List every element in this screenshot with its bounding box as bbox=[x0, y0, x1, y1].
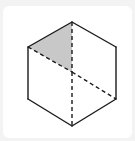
dashed-edge-center-lower-right bbox=[72, 72, 116, 99]
edge-lower-left-bottom bbox=[28, 99, 72, 126]
hexagon-cube-diagram bbox=[0, 0, 135, 141]
edge-top-upper-right bbox=[72, 22, 116, 47]
shaded-triangle bbox=[28, 22, 72, 72]
edge-lower-right-bottom bbox=[72, 99, 116, 126]
